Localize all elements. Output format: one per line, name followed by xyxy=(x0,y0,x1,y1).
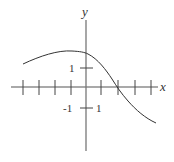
function-graph: y x 1 -1 1 xyxy=(0,0,174,162)
x-tick-label-1: 1 xyxy=(96,102,102,114)
x-axis-label: x xyxy=(159,79,166,94)
y-tick-label-1: 1 xyxy=(69,62,75,74)
y-tick-label-neg1: -1 xyxy=(63,102,72,114)
y-axis-label: y xyxy=(80,4,88,19)
